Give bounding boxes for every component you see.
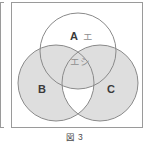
set-label-c: C bbox=[107, 83, 115, 95]
set-label-b: B bbox=[38, 83, 46, 95]
figure-caption: 図 3 bbox=[0, 131, 149, 143]
set-label-a: A bbox=[70, 30, 78, 42]
annotation-a: エ bbox=[83, 31, 93, 42]
annotation-center: エシ bbox=[70, 56, 90, 67]
adjacent-figure-frame-fragment bbox=[0, 2, 4, 128]
figure-box: A B C エ エシ bbox=[11, 2, 143, 128]
venn-diagram: A B C エ エシ bbox=[12, 3, 142, 127]
